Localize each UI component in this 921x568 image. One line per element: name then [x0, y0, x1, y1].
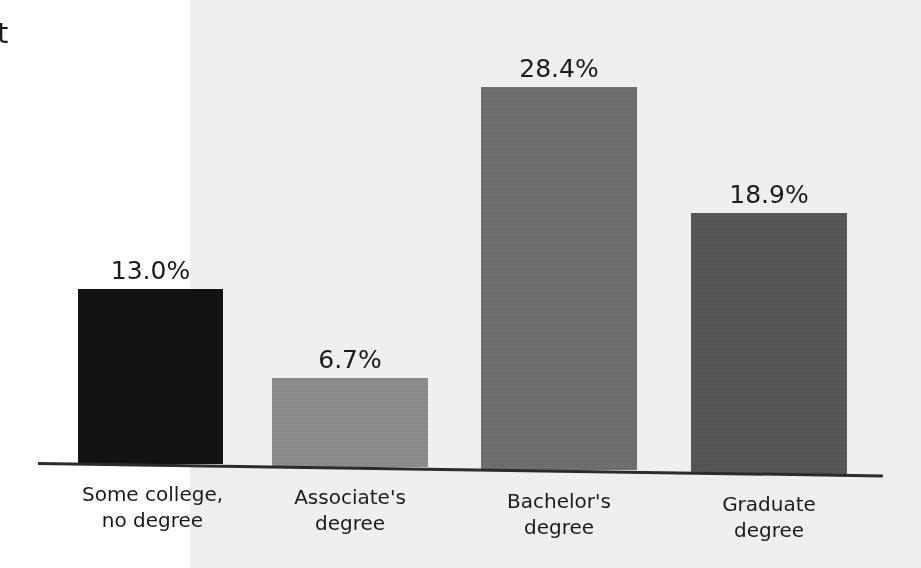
category-label-some-college-no-degree: Some college, no degree [48, 482, 257, 533]
value-label-associates-degree: 6.7% [272, 347, 428, 372]
value-label-bachelors-degree: 28.4% [481, 56, 637, 81]
value-label-some-college-no-degree: 13.0% [78, 258, 223, 283]
bar-chart-plot-area: 13.0% Some college, no degree 6.7% Assoc… [0, 0, 921, 568]
bar-graduate-degree [691, 213, 847, 474]
bar-texture [481, 87, 637, 470]
bar-associates-degree [272, 378, 428, 467]
bar-texture [691, 213, 847, 474]
category-label-bachelors-degree: Bachelor's degree [449, 489, 669, 540]
category-label-graduate-degree: Graduate degree [659, 492, 879, 543]
bar-some-college-no-degree [78, 289, 223, 464]
bar-bachelors-degree [481, 87, 637, 470]
chart-page: t 13.0% Some college, no degree 6.7% Ass… [0, 0, 921, 568]
bar-texture [78, 289, 223, 464]
bar-texture [272, 378, 428, 467]
value-label-graduate-degree: 18.9% [691, 182, 847, 207]
category-label-associates-degree: Associate's degree [240, 485, 460, 536]
